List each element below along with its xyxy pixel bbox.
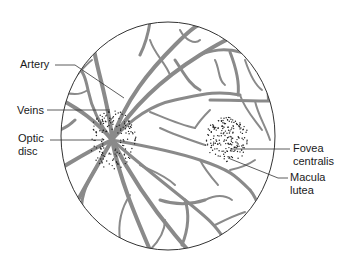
label-macula-lutea: Macula lutea xyxy=(290,171,325,197)
label-artery: Artery xyxy=(20,58,49,71)
fundus-outline xyxy=(61,22,275,250)
macula-dots xyxy=(205,117,248,163)
label-veins: Veins xyxy=(17,104,44,117)
label-fovea-centralis: Fovea centralis xyxy=(293,142,334,168)
label-optic-disc: Optic disc xyxy=(18,132,44,158)
retina-diagram xyxy=(0,0,345,272)
